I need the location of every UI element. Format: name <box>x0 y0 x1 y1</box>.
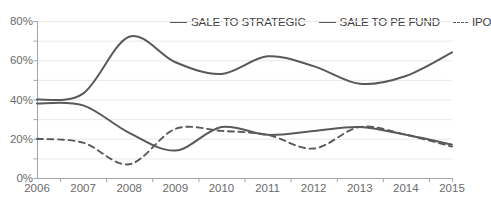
legend-label: IPO <box>472 16 491 28</box>
x-axis-tick-label: 2008 <box>116 182 142 194</box>
x-axis-tick-label: 2015 <box>439 182 465 194</box>
x-axis-tick-label: 2010 <box>209 182 235 194</box>
x-axis-tick-label: 2009 <box>163 182 189 194</box>
x-axis-tick-label: 2007 <box>70 182 96 194</box>
x-axis-tick-label: 2006 <box>24 182 50 194</box>
x-axis-tick-label: 2013 <box>347 182 373 194</box>
x-axis-tick-label: 2014 <box>393 182 419 194</box>
x-axis-tick-label: 2012 <box>301 182 327 194</box>
x-axis-tick-label: 2011 <box>255 182 280 194</box>
